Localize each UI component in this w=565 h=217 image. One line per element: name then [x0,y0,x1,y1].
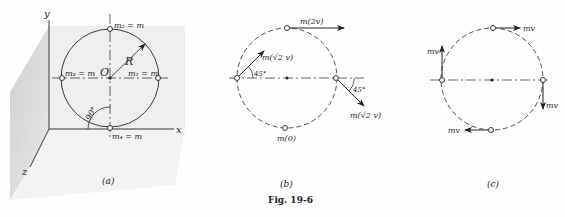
vector-bottom-c-label: mv [448,126,461,135]
origin-label: O [100,66,109,79]
vector-bottom-b-label: m(0) [277,134,296,143]
vector-top-b-label: m(2v) [300,17,323,26]
mass-bottom-c [489,128,494,133]
angle-arc-left-b [249,67,253,78]
mass-m3-left [60,76,65,81]
y-axis-label: y [43,8,50,19]
mass-m2-label: m₂ = m [114,21,145,30]
center-point-b [286,77,289,80]
vector-left-c-label: mv [427,47,440,56]
mass-top-b [285,26,290,31]
angle-right-b-label: 45° [352,86,365,94]
angle-left-b-label: 45° [253,70,266,78]
mass-m1-label: m₁ = m [128,69,159,78]
figure-19-6: y x z R O 90° m₂ = m m₃ = m m₁ = m m₄ = … [0,0,565,217]
mass-m3-label: m₃ = m [65,69,96,78]
panel-c: mv mv mv mv (c) [427,24,559,189]
center-point-c [491,79,494,82]
panel-c-label: (c) [487,179,500,189]
figure-caption: Fig. 19-6 [268,195,313,205]
vector-right-c-label: mv [546,101,559,110]
mass-left-b [235,76,240,81]
x-axis-label: x [176,124,182,135]
panel-b-label: (b) [280,179,293,189]
radius-label: R [124,55,133,68]
vector-top-c-label: mv [523,24,536,33]
panel-a-label: (a) [102,176,115,186]
panel-a: y x z R O 90° m₂ = m m₃ = m m₁ = m m₄ = … [10,8,185,200]
mass-m2-top [108,27,113,32]
mass-top-c [491,26,496,31]
mass-m4-label: m₄ = m [112,132,143,141]
mass-bottom-b [283,126,288,131]
mass-m4-bottom [108,126,113,131]
z-axis-label: z [21,166,28,177]
vector-left-b-label: m(√2 v) [262,53,293,62]
panel-b: m(2v) m(√2 v) 45° 45° m(√2 v) m(0) (b) F… [229,17,381,205]
vector-right-b-label: m(√2 v) [350,111,381,120]
mass-right-b [334,76,339,81]
mass-right-c [541,78,546,83]
mass-left-c [440,78,445,83]
